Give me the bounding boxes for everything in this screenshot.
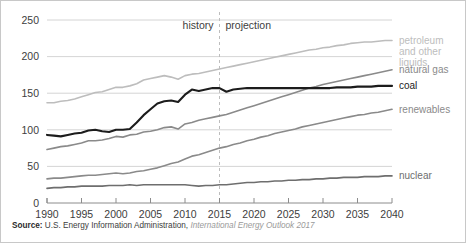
x-tick-label-1995: 1995 bbox=[70, 208, 94, 220]
x-axis-tick-labels: 1990199520002005201020152020202520302035… bbox=[35, 208, 404, 220]
y-tick-label-50: 50 bbox=[27, 160, 39, 172]
x-tick-label-1990: 1990 bbox=[35, 208, 59, 220]
y-tick-label-150: 150 bbox=[21, 87, 39, 99]
history-label: history bbox=[183, 19, 215, 31]
source-note: Source: U.S. Energy Information Administ… bbox=[12, 221, 315, 230]
projection-label: projection bbox=[226, 19, 272, 31]
axes-group bbox=[47, 198, 392, 203]
legend-label-coal: coal bbox=[399, 80, 417, 91]
y-axis-tick-labels: 050100150200250 bbox=[21, 14, 39, 209]
legend-label-petroleum: petroleumand otherliquids bbox=[399, 35, 443, 68]
phase-labels-group: historyprojection bbox=[183, 19, 272, 31]
x-tick-label-2005: 2005 bbox=[139, 208, 163, 220]
source-label: Source: bbox=[12, 221, 42, 230]
x-tick-label-2015: 2015 bbox=[208, 208, 232, 220]
x-tick-label-2040: 2040 bbox=[380, 208, 404, 220]
chart-canvas: 050100150200250 199019952000200520102015… bbox=[0, 0, 466, 243]
y-tick-label-0: 0 bbox=[33, 197, 39, 209]
legend-group: petroleumand otherliquidsnatural gascoal… bbox=[399, 35, 450, 181]
x-tick-label-2030: 2030 bbox=[311, 208, 335, 220]
legend-label-renewables: renewables bbox=[399, 104, 450, 115]
x-tick-label-2010: 2010 bbox=[173, 208, 197, 220]
x-tick-label-2025: 2025 bbox=[277, 208, 301, 220]
source-publication: International Energy Outlook 2017 bbox=[190, 221, 314, 230]
y-tick-label-200: 200 bbox=[21, 50, 39, 62]
energy-consumption-line-chart: 050100150200250 199019952000200520102015… bbox=[0, 0, 466, 243]
x-tick-label-2000: 2000 bbox=[104, 208, 128, 220]
legend-label-nuclear: nuclear bbox=[399, 170, 432, 181]
x-tick-label-2020: 2020 bbox=[242, 208, 266, 220]
y-tick-label-100: 100 bbox=[21, 124, 39, 136]
x-tick-label-2035: 2035 bbox=[346, 208, 370, 220]
source-agency: U.S. Energy Information Administration, bbox=[45, 221, 188, 230]
legend-label-natural_gas: natural gas bbox=[399, 64, 448, 75]
y-tick-label-250: 250 bbox=[21, 14, 39, 26]
